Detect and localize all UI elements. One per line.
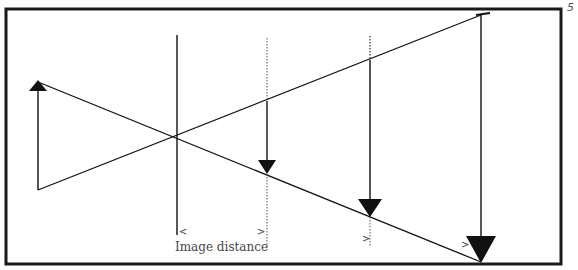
image-distance-marker-right-2: >: [362, 233, 370, 244]
image-distance-label: Image distance: [175, 240, 268, 254]
image-arrow-2: [358, 36, 382, 246]
arrowhead-down-icon: [466, 236, 496, 263]
ray-diagram: [0, 0, 578, 270]
image-distance-marker-right-1: >: [257, 226, 265, 237]
image-arrow-3: [466, 13, 496, 263]
arrowhead-up-icon: [29, 80, 47, 91]
image-distance-marker-right-3: >: [461, 239, 469, 250]
image-distance-marker-left: <: [179, 226, 187, 237]
image-arrow-1: [258, 38, 276, 247]
figure-frame: [6, 9, 561, 264]
figure-number: 5: [567, 1, 574, 14]
ray-from-object-base: [38, 15, 481, 190]
object-arrow: [29, 80, 47, 190]
arrowhead-down-icon: [358, 199, 382, 217]
